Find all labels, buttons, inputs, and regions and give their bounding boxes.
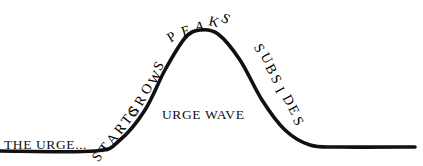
- label-the-urge: THE URGE...: [4, 138, 87, 152]
- peaks-letter: A: [195, 19, 206, 35]
- label-urge-wave: URGE WAVE: [162, 108, 245, 122]
- wave-path: [0, 30, 415, 152]
- urge-wave-diagram: THE URGE... URGE WAVE STARTS GROWS PEAKS…: [0, 0, 423, 166]
